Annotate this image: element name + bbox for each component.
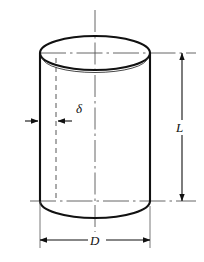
canvas-background bbox=[0, 0, 204, 262]
cylinder-diagram: δ L D bbox=[0, 0, 204, 262]
figure-container: δ L D bbox=[0, 0, 204, 262]
diameter-label: D bbox=[89, 233, 100, 248]
length-label: L bbox=[175, 120, 183, 135]
wall-thickness-label: δ bbox=[76, 101, 83, 116]
